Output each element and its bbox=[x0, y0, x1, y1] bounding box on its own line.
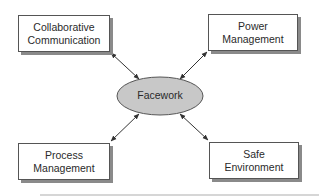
arrow-to-process-management bbox=[111, 114, 139, 141]
node-label-line1: Power bbox=[238, 20, 268, 33]
arrow-to-power-management bbox=[180, 52, 207, 79]
arrow-to-safe-environment bbox=[180, 114, 208, 140]
node-collaborative-communication: Collaborative Communication bbox=[18, 15, 110, 52]
node-label-line2: Communication bbox=[28, 34, 101, 47]
facework-diagram: Facework Collaborative Communication Pow… bbox=[0, 0, 319, 196]
node-label-line1: Safe bbox=[243, 148, 265, 161]
bottom-divider bbox=[40, 194, 319, 196]
facework-label: Facework bbox=[117, 88, 203, 102]
node-label-line1: Collaborative bbox=[33, 21, 94, 34]
node-process-management: Process Management bbox=[18, 143, 110, 180]
node-label-line2: Management bbox=[33, 162, 94, 175]
node-safe-environment: Safe Environment bbox=[209, 142, 299, 179]
node-label-line2: Management bbox=[222, 33, 283, 46]
node-power-management: Power Management bbox=[208, 14, 298, 51]
arrow-to-collaborative-communication bbox=[111, 53, 139, 79]
node-label-line1: Process bbox=[45, 149, 83, 162]
node-label-line2: Environment bbox=[225, 161, 284, 174]
